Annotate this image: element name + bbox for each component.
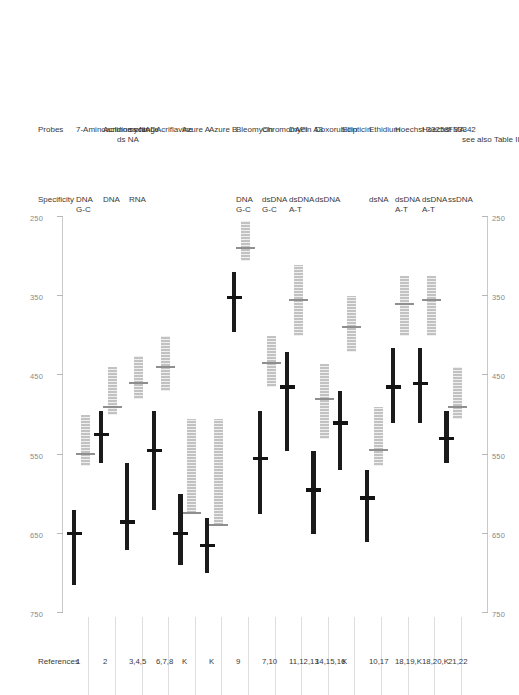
axis-tick-label: 750 (492, 610, 505, 619)
probe-label: Ellipticin (342, 125, 371, 135)
axis-tick (57, 216, 63, 217)
reference-label: 18,19,K (395, 657, 422, 667)
excitation-range-bar (400, 276, 409, 335)
emission-peak-marker (94, 433, 109, 436)
axis-tick-label: 250 (492, 214, 505, 223)
figure-canvas: 750750650650550550450450350350250250Refe… (0, 0, 519, 695)
column-separator (381, 617, 382, 695)
reference-label: 3,4,5 (129, 657, 146, 667)
column-separator (328, 617, 329, 695)
specificity-label: DNAG-C (236, 195, 253, 214)
emission-peak-marker (306, 488, 321, 491)
axis-tick-label: 650 (30, 531, 43, 540)
reference-label: 9 (236, 657, 240, 667)
excitation-peak-marker (103, 406, 122, 408)
axis-tick-label: 450 (30, 372, 43, 381)
excitation-range-bar (374, 407, 383, 466)
reference-label: 21,22 (448, 657, 468, 667)
specificity-label: dsDNAA-T (422, 195, 447, 214)
reference-label: K (182, 657, 187, 667)
emission-range-bar (125, 463, 129, 550)
column-separator (248, 617, 249, 695)
emission-range-bar (152, 411, 156, 510)
plot-area: 750750650650550550450450350350250250Refe… (0, 0, 519, 695)
column-separator (434, 617, 435, 695)
specificity-header: Specificity (38, 195, 74, 205)
specificity-label: RNA (129, 195, 146, 205)
column-separator (354, 617, 355, 695)
excitation-peak-marker (395, 303, 414, 305)
emission-peak-marker (67, 532, 82, 535)
excitation-range-bar (161, 336, 170, 391)
reference-label: 18,20,K (422, 657, 449, 667)
axis-tick-label: 350 (30, 293, 43, 302)
emission-peak-marker (360, 496, 375, 499)
reference-label: 6,7,8 (156, 657, 173, 667)
axis-tick (482, 374, 488, 375)
emission-range-bar (311, 451, 315, 534)
reference-label: 2 (103, 657, 107, 667)
excitation-range-bar (347, 296, 356, 351)
emission-peak-marker (200, 544, 215, 547)
axis-tick-label: 250 (30, 214, 43, 223)
specificity-label: dsNA (369, 195, 389, 205)
excitation-range-bar (427, 276, 436, 335)
column-separator (88, 617, 89, 695)
axis-tick (57, 454, 63, 455)
excitation-peak-marker (448, 406, 467, 408)
excitation-peak-marker (342, 326, 361, 328)
excitation-range-bar (134, 356, 143, 400)
specificity-label: dsDNAA-T (395, 195, 420, 214)
excitation-peak-marker (262, 362, 281, 364)
emission-peak-marker (333, 421, 348, 424)
axis-tick (482, 295, 488, 296)
excitation-peak-marker (76, 453, 95, 455)
column-separator (142, 617, 143, 695)
column-separator (195, 617, 196, 695)
emission-range-bar (365, 470, 369, 541)
axis-tick-label: 350 (492, 293, 505, 302)
excitation-range-bar (320, 364, 329, 439)
axis-tick (482, 454, 488, 455)
axis-line-bottom (487, 217, 488, 613)
probe-label: DAPI (289, 125, 308, 135)
emission-peak-marker (173, 532, 188, 535)
axis-line-top (62, 217, 63, 613)
excitation-peak-marker (289, 299, 308, 301)
specificity-label: DNA (103, 195, 120, 205)
excitation-peak-marker (182, 513, 201, 515)
column-separator (301, 617, 302, 695)
specificity-label: DNAG-C (76, 195, 93, 214)
reference-label: K (342, 657, 347, 667)
specificity-label: dsDNAG-C (262, 195, 287, 214)
probe-label: Azure B (209, 125, 237, 135)
axis-tick-label: 650 (492, 531, 505, 540)
emission-peak-marker (120, 520, 135, 523)
excitation-peak-marker (422, 299, 441, 301)
column-separator (221, 617, 222, 695)
emission-range-bar (72, 510, 76, 585)
emission-range-bar (258, 411, 262, 514)
emission-peak-marker (253, 457, 268, 460)
axis-tick-label: 750 (30, 610, 43, 619)
probe-label: FMAsee also Table II (448, 125, 519, 144)
excitation-peak-marker (209, 524, 228, 526)
excitation-peak-marker (129, 382, 148, 384)
rotated-figure: 750750650650550550450450350350250250Refe… (0, 0, 519, 695)
column-separator (168, 617, 169, 695)
probes-header: Probes (38, 125, 63, 135)
reference-label: 7,10 (262, 657, 277, 667)
emission-peak-marker (147, 449, 162, 452)
axis-tick-label: 450 (492, 372, 505, 381)
reference-label: 10,17 (369, 657, 389, 667)
excitation-range-bar (241, 221, 250, 261)
emission-range-bar (285, 352, 289, 451)
axis-tick (57, 374, 63, 375)
column-separator (408, 617, 409, 695)
excitation-peak-marker (156, 366, 175, 368)
axis-tick-label: 550 (30, 452, 43, 461)
specificity-label: dsDNAA-T (289, 195, 314, 214)
axis-tick (482, 533, 488, 534)
excitation-range-bar (81, 415, 90, 466)
axis-tick (57, 295, 63, 296)
